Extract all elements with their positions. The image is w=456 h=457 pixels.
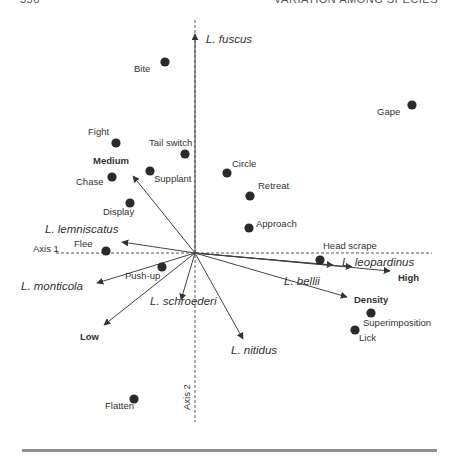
point-retreat	[245, 191, 254, 200]
point-label-lick: Lick	[359, 332, 376, 343]
vector-label-l-lemniscatus: L. lemniscatus	[45, 223, 119, 235]
point-label-approach: Approach	[256, 218, 297, 229]
point-label-tail-switch: Tail switch	[149, 137, 192, 148]
vector-label-l-bellii: L. bellii	[284, 275, 320, 287]
point-label-head-scrape: Head scrape	[323, 240, 377, 251]
point-fight	[111, 138, 120, 147]
point-label-display: Display	[103, 206, 134, 217]
vector-label-high: High	[398, 272, 419, 283]
vector-label-l-monticola: L. monticola	[21, 280, 83, 292]
point-label-push-up: Push-up	[125, 270, 160, 281]
point-label-circle: Circle	[232, 158, 256, 169]
vector-label-l-leopardinus: L. leopardinus	[342, 256, 414, 268]
point-label-fight: Fight	[88, 126, 109, 137]
bottom-rule	[22, 449, 437, 452]
axis-label-axis-1: Axis 1	[33, 243, 59, 254]
point-label-supplant: Supplant	[154, 173, 192, 184]
point-label-chase: Chase	[76, 176, 103, 187]
point-tail-switch	[180, 149, 189, 158]
biplot: L. fuscusMediumL. lemniscatusL. monticol…	[0, 0, 456, 457]
point-head-scrape	[315, 255, 324, 264]
point-label-flatten: Flatten	[105, 400, 134, 411]
vector-label-density: Density	[354, 294, 389, 305]
vector-arrow-low	[104, 253, 195, 325]
point-gape	[407, 100, 416, 109]
point-approach	[244, 223, 253, 232]
point-label-retreat: Retreat	[258, 180, 290, 191]
point-flee	[101, 246, 110, 255]
vector-arrow-l-lemniscatus	[122, 242, 195, 253]
vector-label-l-fuscus: L. fuscus	[206, 33, 252, 45]
axis-label-axis-2: Axis 2	[181, 384, 192, 410]
vector-label-low: Low	[80, 331, 100, 342]
vector-label-medium: Medium	[93, 155, 129, 166]
vector-label-l-schroederi: L. schroederi	[150, 295, 217, 307]
vector-label-l-nitidus: L. nitidus	[231, 344, 277, 356]
point-bite	[160, 57, 169, 66]
point-label-flee: Flee	[74, 238, 92, 249]
vector-arrow-l-schroederi	[181, 253, 195, 300]
point-circle	[222, 168, 231, 177]
vector-arrow-medium	[133, 176, 195, 253]
point-label-gape: Gape	[377, 106, 400, 117]
point-label-bite: Bite	[134, 63, 150, 74]
point-label-superimposition: Superimposition	[363, 317, 431, 328]
point-chase	[107, 172, 116, 181]
